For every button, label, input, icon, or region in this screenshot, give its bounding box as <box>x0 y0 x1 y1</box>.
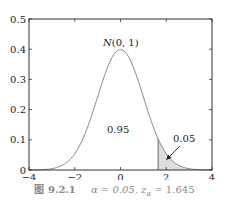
y-tick-label: 0.5 <box>10 14 26 25</box>
density-curve <box>29 50 212 170</box>
x-tick-label: 0 <box>117 172 123 180</box>
figure-number: 图 9.2.1 <box>34 184 75 195</box>
y-tick-label: 0.1 <box>10 134 26 145</box>
normal-distribution-chart: 00.10.20.30.40.5 −4−2024 N(0, 1) 0.95 0.… <box>0 0 229 180</box>
y-tick-label: 0.2 <box>10 104 26 115</box>
annotation-arrow <box>168 146 180 158</box>
x-tick-label: −4 <box>22 172 37 180</box>
y-tick-label: 0.3 <box>10 74 26 85</box>
y-tick-labels: 00.10.20.30.40.5 <box>10 14 26 176</box>
x-tick-labels: −4−2024 <box>22 172 216 180</box>
caption-value: = 1.645 <box>151 184 194 195</box>
center-area-label: 0.95 <box>107 124 129 135</box>
x-tick-label: −2 <box>67 172 82 180</box>
figure-caption: 图 9.2.1 α = 0.05, zα = 1.645 <box>0 181 229 198</box>
y-tick-label: 0.4 <box>10 44 26 55</box>
tail-area-label: 0.05 <box>173 133 195 144</box>
caption-text: α = 0.05, zα <box>91 184 151 195</box>
curve-label: N(0, 1) <box>102 37 139 48</box>
x-tick-label: 2 <box>163 172 169 180</box>
x-tick-label: 4 <box>209 172 215 180</box>
